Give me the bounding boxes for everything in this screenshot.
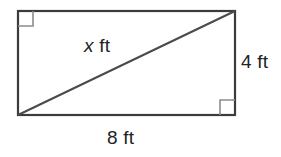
rectangle-diagram-svg: [0, 0, 281, 157]
right-side-length-label: 4 ft: [241, 52, 268, 71]
diagonal-variable: x: [84, 35, 94, 56]
figure-background: [0, 0, 281, 157]
geometry-figure: x ft 4 ft 8 ft: [0, 0, 281, 157]
diagonal-unit: ft: [99, 35, 110, 56]
diagonal-length-label: x ft: [84, 36, 110, 55]
bottom-side-length-label: 8 ft: [107, 128, 134, 147]
